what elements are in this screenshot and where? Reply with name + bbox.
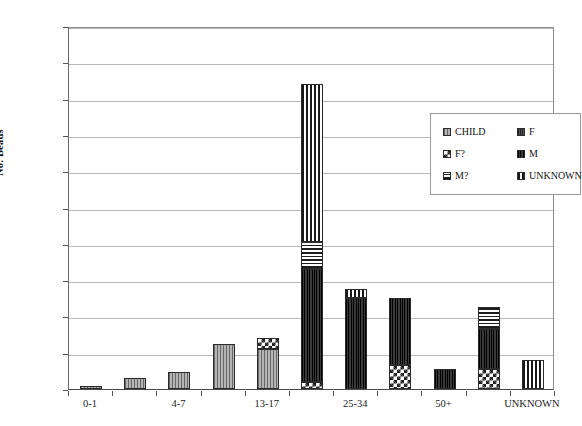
- bar-2-3[interactable]: [124, 378, 146, 389]
- legend-swatch-M-icon: [517, 150, 525, 158]
- legend-item-M[interactable]: M?: [443, 165, 486, 187]
- legend: CHILDF?M? FMUNKNOWN: [430, 113, 581, 195]
- plot-area: CHILDF?M? FMUNKNOWN: [68, 27, 554, 390]
- x-tick-label-25-34: 25-34: [305, 398, 405, 409]
- y-axis-title: No. Beads: [0, 129, 5, 176]
- bar-segment-2-3-CHILD: [124, 378, 146, 389]
- legend-column-right: FMUNKNOWN: [517, 121, 582, 187]
- bar-segment-UNKNOWN-UNKNOWN: [522, 360, 544, 389]
- bar-segment-25-34-UNKNOWN: [345, 289, 367, 298]
- bar-13-17[interactable]: [257, 338, 279, 389]
- x-tick-label-UNKNOWN: UNKNOWN: [482, 398, 582, 409]
- legend-item-M[interactable]: M: [517, 143, 582, 165]
- legend-label: UNKNOWN: [529, 171, 582, 181]
- bar-4-7[interactable]: [168, 372, 190, 389]
- legend-label: M?: [455, 171, 468, 181]
- x-tick-mark-5: [289, 391, 290, 396]
- gridline-1000: [69, 28, 553, 29]
- legend-swatch-F-icon: [443, 150, 451, 158]
- x-tick-mark-11: [554, 391, 555, 396]
- bar-segment-13-17-F?: [257, 338, 279, 349]
- legend-swatch-F-icon: [517, 128, 525, 136]
- bar-segment-60+-M: [478, 329, 500, 369]
- x-tick-mark-10: [510, 391, 511, 396]
- x-tick-mark-0: [68, 391, 69, 396]
- legend-swatch-M-icon: [443, 172, 451, 180]
- x-tick-label-50+: 50+: [394, 398, 494, 409]
- bar-50+[interactable]: [434, 369, 456, 389]
- legend-column-left: CHILDF?M?: [443, 121, 486, 187]
- bar-35-49[interactable]: [389, 298, 411, 389]
- x-tick-mark-9: [466, 391, 467, 396]
- bar-segment-35-49-M: [389, 298, 411, 365]
- x-tick-mark-7: [377, 391, 378, 396]
- bar-8-12[interactable]: [213, 344, 235, 389]
- bar-segment-18-24-F?: [301, 382, 323, 389]
- x-tick-mark-8: [421, 391, 422, 396]
- legend-label: F?: [455, 149, 465, 159]
- bar-segment-13-17-CHILD: [257, 349, 279, 389]
- x-tick-mark-6: [333, 391, 334, 396]
- gridline-900: [69, 64, 553, 65]
- bar-segment-60+-M?: [478, 307, 500, 329]
- bar-18-24[interactable]: [301, 84, 323, 389]
- legend-swatch-UNKNOWN-icon: [517, 172, 525, 180]
- legend-label: CHILD: [455, 127, 486, 137]
- bar-0-1[interactable]: [80, 386, 102, 389]
- x-tick-label-0-1: 0-1: [40, 398, 140, 409]
- bar-segment-25-34-M: [345, 298, 367, 389]
- bar-segment-8-12-CHILD: [213, 344, 235, 389]
- x-tick-mark-4: [245, 391, 246, 396]
- bar-segment-18-24-UNKNOWN: [301, 84, 323, 242]
- bar-segment-4-7-CHILD: [168, 372, 190, 389]
- x-tick-label-13-17: 13-17: [217, 398, 317, 409]
- x-tick-label-4-7: 4-7: [128, 398, 228, 409]
- legend-label: M: [529, 149, 538, 159]
- legend-swatch-CHILD-icon: [443, 128, 451, 136]
- bar-25-34[interactable]: [345, 289, 367, 389]
- legend-label: F: [529, 127, 535, 137]
- x-tick-mark-1: [112, 391, 113, 396]
- legend-item-CHILD[interactable]: CHILD: [443, 121, 486, 143]
- bar-segment-50+-M: [434, 369, 456, 389]
- bar-60+[interactable]: [478, 307, 500, 389]
- legend-item-F[interactable]: F: [517, 121, 582, 143]
- bar-segment-0-1-CHILD: [80, 386, 102, 389]
- bar-segment-18-24-M: [301, 269, 323, 382]
- bar-segment-18-24-M?: [301, 242, 323, 269]
- x-tick-mark-3: [201, 391, 202, 396]
- bar-segment-60+-F?: [478, 369, 500, 389]
- bar-segment-35-49-F?: [389, 365, 411, 389]
- legend-item-F[interactable]: F?: [443, 143, 486, 165]
- bar-UNKNOWN[interactable]: [522, 360, 544, 389]
- x-tick-mark-2: [156, 391, 157, 396]
- legend-item-UNKNOWN[interactable]: UNKNOWN: [517, 165, 582, 187]
